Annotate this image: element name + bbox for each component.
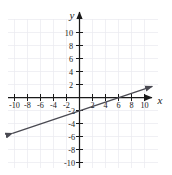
y-tick-label: 4 (69, 68, 73, 77)
y-tick-label: -10 (64, 159, 75, 168)
coordinate-plane-figure: -10 -8 -6 -4 -2 2 4 6 8 10 10 8 6 4 2 -2… (0, 0, 172, 175)
x-tick-label: 8 (129, 101, 133, 110)
x-tick-label: 10 (140, 101, 148, 110)
x-tick-label: -6 (37, 101, 44, 110)
y-tick-label: 2 (69, 81, 73, 90)
graph-canvas: -10 -8 -6 -4 -2 2 4 6 8 10 10 8 6 4 2 -2… (0, 0, 172, 175)
y-tick-label: 8 (69, 42, 73, 51)
x-tick-label: -4 (50, 101, 57, 110)
grid-horizontal-lines (8, 20, 158, 163)
y-tick-label: -4 (68, 120, 75, 129)
y-tick-label: -6 (68, 133, 75, 142)
x-tick-label: 6 (116, 101, 120, 110)
y-axis-label: y (69, 9, 75, 21)
x-tick-label: 2 (90, 101, 94, 110)
x-axis-tick-labels: -10 -8 -6 -4 -2 2 4 6 8 10 (9, 101, 149, 110)
y-tick-label: -8 (68, 146, 75, 155)
x-axis-label: x (157, 94, 163, 106)
x-tick-label: -10 (9, 101, 20, 110)
y-tick-label: 6 (69, 55, 73, 64)
x-tick-label: -8 (24, 101, 31, 110)
y-tick-label: 10 (65, 29, 73, 38)
